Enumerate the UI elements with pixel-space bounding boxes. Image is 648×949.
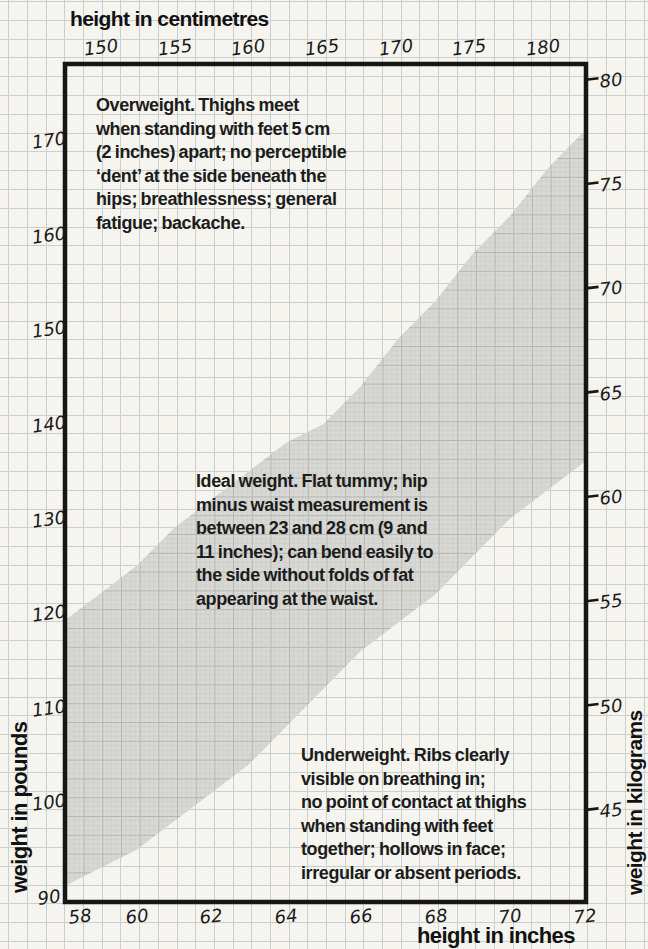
tick-kg-60: 60 [599, 485, 624, 508]
tick-kg-55: 55 [599, 590, 624, 613]
tick-lb-160: 160 [31, 222, 68, 248]
tick-in-64: 64 [274, 904, 299, 927]
tick-in-70: 70 [498, 904, 523, 927]
tick-kg-45: 45 [599, 798, 624, 821]
tick-lb-150: 150 [31, 316, 68, 342]
tick-lb-140: 140 [31, 411, 68, 437]
tick-kg-50: 50 [599, 694, 624, 717]
tick-cm-160: 160 [230, 34, 267, 59]
ideal-weight-annotation: Ideal weight. Flat tummy; hip minus wais… [196, 470, 433, 612]
tick-kg-80: 80 [599, 68, 624, 91]
scanned-weight-height-chart: height in centimetres height in inches w… [0, 0, 648, 949]
tick-in-58: 58 [68, 904, 93, 927]
tick-cm-180: 180 [524, 34, 561, 59]
tick-lb-90: 90 [36, 885, 62, 909]
underweight-annotation: Underweight. Ribs clearly visible on bre… [301, 744, 526, 886]
tick-cm-165: 165 [304, 34, 341, 59]
tick-in-60: 60 [124, 904, 149, 927]
tick-cm-170: 170 [377, 34, 414, 59]
overweight-annotation: Overweight. Thighs meet when standing wi… [96, 94, 346, 236]
tick-lb-130: 130 [31, 506, 68, 532]
tick-cm-175: 175 [451, 34, 488, 59]
tick-cm-150: 150 [83, 34, 120, 59]
tick-in-72: 72 [572, 904, 597, 927]
tick-kg-70: 70 [599, 277, 624, 300]
tick-lb-120: 120 [31, 600, 68, 626]
tick-lb-170: 170 [31, 127, 68, 153]
tick-in-68: 68 [423, 904, 448, 927]
tick-lb-110: 110 [31, 695, 68, 721]
tick-in-62: 62 [199, 904, 224, 927]
tick-kg-75: 75 [599, 172, 624, 195]
tick-lb-100: 100 [31, 790, 68, 816]
tick-cm-155: 155 [157, 34, 194, 59]
tick-kg-65: 65 [599, 381, 624, 404]
tick-in-66: 66 [348, 904, 373, 927]
